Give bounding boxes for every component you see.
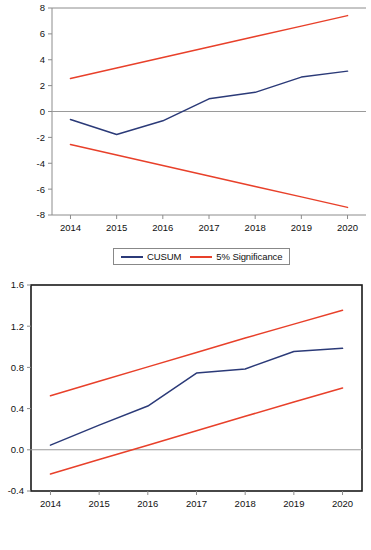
x-axis-tick-label: 2014	[60, 222, 81, 233]
x-axis-tick-label: 2015	[89, 498, 110, 509]
x-axis-tick-label: 2018	[235, 498, 256, 509]
series-line-1	[50, 310, 342, 395]
legend-swatch-cusum-line	[121, 256, 143, 258]
cusum-of-squares-plot-wrap: 1.61.20.80.40.0-0.4201420152016201720182…	[0, 275, 371, 520]
plot-frame	[31, 285, 362, 491]
x-axis-tick-label: 2020	[337, 222, 358, 233]
series-line-2	[50, 388, 342, 474]
y-axis-tick-label: 1.6	[11, 279, 24, 290]
cusum-of-squares-chart-block: 1.61.20.80.40.0-0.4201420152016201720182…	[0, 275, 371, 550]
series-line-0	[70, 71, 347, 134]
x-axis-tick-label: 2017	[186, 498, 207, 509]
y-axis-tick-label: 0.8	[11, 362, 24, 373]
series-line-2	[70, 144, 347, 207]
x-axis-tick-label: 2016	[137, 498, 158, 509]
y-axis-tick-label: 6	[40, 28, 45, 39]
cusum-chart-block: 86420-2-4-6-8201420152016201720182019202…	[0, 0, 371, 275]
legend-entry-significance: 5% Significance	[190, 252, 282, 262]
x-axis-tick-label: 2019	[291, 222, 312, 233]
series-line-1	[70, 16, 347, 79]
x-axis-tick-label: 2017	[198, 222, 219, 233]
y-axis-tick-label: -0.4	[8, 485, 24, 496]
legend-label-cusum: CUSUM	[147, 252, 181, 262]
y-axis-tick-label: 8	[40, 2, 45, 13]
y-axis-tick-label: 4	[40, 54, 45, 65]
cusum-plot-wrap: 86420-2-4-6-8201420152016201720182019202…	[0, 0, 371, 245]
x-axis-tick-label: 2019	[283, 498, 304, 509]
y-axis-tick-label: -2	[37, 132, 45, 143]
y-axis-tick-label: 2	[40, 80, 45, 91]
cusum-plot: 86420-2-4-6-8201420152016201720182019202…	[0, 0, 371, 245]
legend-label-significance: 5% Significance	[216, 252, 282, 262]
x-axis-tick-label: 2015	[106, 222, 127, 233]
cusum-of-squares-plot: 1.61.20.80.40.0-0.4201420152016201720182…	[0, 275, 371, 520]
y-axis-tick-label: -4	[37, 158, 45, 169]
cusum-legend: CUSUM 5% Significance	[113, 248, 290, 265]
x-axis-tick-label: 2020	[332, 498, 353, 509]
x-axis-tick-label: 2018	[245, 222, 266, 233]
y-axis-tick-label: -8	[37, 209, 45, 220]
y-axis-tick-label: 0.4	[11, 403, 24, 414]
y-axis-tick-label: -6	[37, 184, 45, 195]
x-axis-tick-label: 2016	[152, 222, 173, 233]
y-axis-tick-label: 0	[40, 106, 45, 117]
y-axis-tick-label: 1.2	[11, 321, 24, 332]
legend-entry-cusum: CUSUM	[121, 252, 181, 262]
x-axis-tick-label: 2014	[40, 498, 61, 509]
legend-swatch-significance-line	[190, 256, 212, 258]
y-axis-tick-label: 0.0	[11, 444, 24, 455]
